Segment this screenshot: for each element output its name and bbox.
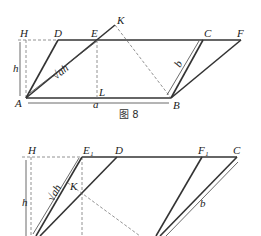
label-D: D [53, 27, 62, 39]
label-F1: F₁ [197, 144, 209, 156]
label-h: h [22, 196, 28, 208]
label-b: b [171, 58, 184, 69]
figure-caption: 图 8 [119, 109, 139, 120]
label-K: K [69, 180, 78, 192]
segment-KB [115, 25, 171, 98]
label-sqrt-ah: √ah [44, 182, 63, 203]
label-E: E [90, 27, 98, 39]
figure-9: H E₁ D F₁ C K h √ah b [22, 144, 241, 236]
label-H: H [27, 144, 37, 156]
label-E1: E₁ [82, 144, 94, 156]
label-K: K [116, 14, 125, 26]
label-H: H [19, 27, 29, 39]
dimension-b [167, 41, 199, 95]
segment-KB [68, 183, 140, 236]
segment-BC [160, 157, 237, 236]
label-h: h [13, 62, 19, 74]
label-b: b [200, 197, 206, 209]
label-C: C [204, 27, 212, 39]
label-F: F [236, 27, 244, 39]
label-C: C [233, 144, 241, 156]
label-a: a [93, 98, 99, 110]
label-L: L [98, 86, 105, 98]
segment-BC [171, 40, 203, 98]
figure-8: H D E K C F A L B h √ah a b 图 8 [13, 14, 244, 120]
segment-BF1 [156, 157, 202, 236]
label-B: B [173, 99, 180, 111]
geometry-diagram: H D E K C F A L B h √ah a b 图 8 H E₁ D F… [0, 0, 261, 236]
label-D: D [114, 144, 123, 156]
segment-AE1 [36, 157, 82, 236]
label-A: A [14, 97, 22, 109]
